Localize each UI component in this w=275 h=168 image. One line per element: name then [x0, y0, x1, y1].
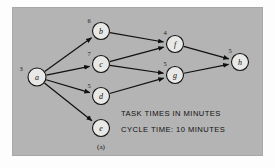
- node-h[interactable]: h5: [228, 47, 248, 71]
- node-label-h: h: [238, 58, 242, 67]
- edge-a-to-c: [46, 66, 89, 75]
- node-b[interactable]: b6: [87, 17, 109, 40]
- edge-a-to-e: [44, 83, 91, 121]
- edge-f-to-h: [184, 46, 229, 58]
- node-e[interactable]: e2: [87, 114, 109, 137]
- edges-group: [44, 33, 228, 121]
- node-d[interactable]: d5: [87, 82, 109, 105]
- task-time-h: 5: [228, 47, 231, 54]
- figure-caption: (a): [97, 143, 105, 151]
- node-label-c: c: [99, 60, 103, 69]
- node-g[interactable]: g5: [163, 60, 183, 84]
- task-time-c: 7: [87, 50, 91, 57]
- edge-b-to-f: [110, 33, 164, 42]
- edge-c-to-f: [110, 47, 164, 62]
- figure-root: a3b6c7d5e2f4g5h5 TASK TIMES IN MINUTES C…: [0, 0, 275, 168]
- node-label-b: b: [99, 27, 103, 36]
- task-time-d: 5: [87, 82, 90, 89]
- precedence-diagram: a3b6c7d5e2f4g5h5 TASK TIMES IN MINUTES C…: [0, 0, 275, 168]
- annotation-task-times: TASK TIMES IN MINUTES: [121, 109, 221, 118]
- task-time-a: 3: [19, 65, 22, 72]
- edge-d-to-g: [110, 78, 164, 93]
- node-c[interactable]: c7: [87, 50, 109, 73]
- edge-c-to-g: [110, 65, 164, 73]
- node-label-g: g: [173, 71, 177, 80]
- node-a[interactable]: a3: [19, 65, 46, 87]
- node-label-e: e: [99, 124, 103, 133]
- task-time-g: 5: [163, 60, 166, 67]
- task-time-e: 2: [87, 114, 90, 121]
- node-f[interactable]: f4: [163, 29, 183, 53]
- task-time-f: 4: [163, 29, 167, 36]
- nodes-group: a3b6c7d5e2f4g5h5: [19, 17, 248, 137]
- edge-g-to-h: [184, 64, 229, 73]
- task-time-b: 6: [87, 17, 91, 24]
- annotation-cycle-time: CYCLE TIME: 10 MINUTES: [121, 125, 225, 134]
- edge-a-to-d: [46, 80, 90, 93]
- node-label-a: a: [35, 73, 39, 82]
- edge-a-to-b: [45, 38, 92, 72]
